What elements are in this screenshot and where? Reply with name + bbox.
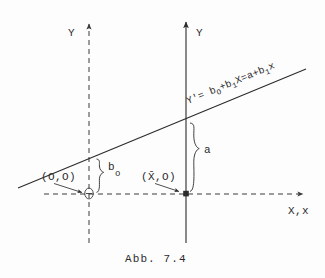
- figure-container: Y X,x Y Y'= bO+b1X=a+b1x b o: [0, 0, 325, 278]
- regression-diagram: Y X,x Y Y'= bO+b1X=a+b1x b o: [0, 0, 325, 278]
- y-axis-right-label: Y: [196, 27, 203, 39]
- b0-label-main: b: [108, 161, 115, 173]
- origin-point-label: (O,O): [41, 171, 76, 183]
- eq-part-lhs: Y'= b: [185, 85, 218, 107]
- regression-equation: Y'= bO+b1X=a+b1x: [185, 60, 278, 108]
- a-brace: [190, 123, 199, 191]
- b0-label-subscript: o: [115, 169, 120, 179]
- mean-point-marker: [183, 191, 189, 197]
- a-brace-path: [190, 123, 199, 191]
- origin-leader-arrow: [54, 184, 82, 193]
- x-axis-label: X,x: [288, 205, 309, 217]
- b0-brace-path: [97, 159, 104, 192]
- mean-leader-arrow: [155, 184, 179, 192]
- eq-part-mid2: X=a+b: [234, 65, 267, 87]
- mean-point-label: (X̄,O): [141, 171, 176, 183]
- mean-point-dot: [183, 191, 189, 197]
- b0-brace: [97, 159, 104, 192]
- y-axis-left-label: Y: [68, 27, 75, 39]
- regression-equation-text: Y'= bO+b1X=a+b1x: [185, 60, 278, 108]
- figure-caption: Abb. 7.4: [125, 253, 187, 265]
- eq-part-mid: +b: [218, 78, 234, 93]
- a-label: a: [204, 144, 211, 156]
